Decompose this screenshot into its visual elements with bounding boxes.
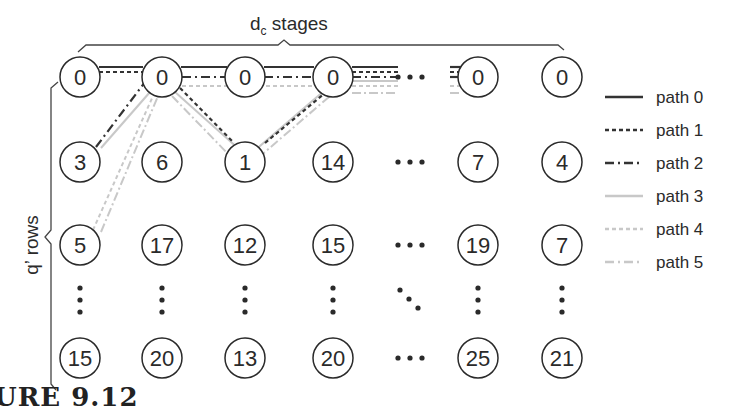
trellis-node: 17: [142, 225, 182, 265]
node-value: 14: [321, 150, 345, 175]
trellis-node: 15: [313, 225, 353, 265]
legend-label: path 1: [656, 121, 703, 140]
legend-label: path 3: [656, 187, 703, 206]
node-value: 3: [74, 150, 86, 175]
rows-brace: [45, 82, 58, 390]
ellipsis: [330, 285, 335, 314]
node-value: 7: [472, 150, 484, 175]
legend-item-path-2: path 2: [605, 154, 703, 173]
legend: path 0path 1path 2path 3path 4path 5: [605, 88, 703, 272]
ellipsis: [159, 285, 164, 314]
trellis-node: 21: [542, 338, 582, 378]
ellipsis: [395, 355, 424, 360]
legend-label: path 5: [656, 253, 703, 272]
node-value: 0: [472, 65, 484, 90]
legend-label: path 0: [656, 88, 703, 107]
node-value: 21: [550, 346, 574, 371]
node-value: 25: [466, 346, 490, 371]
trellis-node: 0: [313, 57, 353, 97]
trellis-node: 20: [142, 338, 182, 378]
stages-brace: [78, 40, 564, 52]
trellis-node: 15: [60, 338, 100, 378]
trellis-node: 7: [458, 142, 498, 182]
legend-item-path-4: path 4: [605, 220, 703, 239]
trellis-node: 1: [225, 142, 265, 182]
legend-item-path-1: path 1: [605, 121, 703, 140]
node-value: 15: [68, 346, 92, 371]
legend-item-path-0: path 0: [605, 88, 703, 107]
node-value: 1: [239, 150, 251, 175]
legend-label: path 4: [656, 220, 703, 239]
node-value: 5: [74, 233, 86, 258]
trellis-node: 25: [458, 338, 498, 378]
node-value: 6: [156, 150, 168, 175]
node-value: 0: [327, 65, 339, 90]
trellis-node: 14: [313, 142, 353, 182]
node-value: 0: [556, 65, 568, 90]
rows-label: q’ rows: [21, 215, 42, 274]
trellis-node: 3: [60, 142, 100, 182]
node-value: 13: [233, 346, 257, 371]
trellis-node: 19: [458, 225, 498, 265]
node-value: 0: [156, 65, 168, 90]
node-value: 15: [321, 233, 345, 258]
node-value: 20: [150, 346, 174, 371]
trellis-node: 0: [60, 57, 100, 97]
legend-item-path-3: path 3: [605, 187, 703, 206]
ellipsis: [395, 242, 424, 247]
node-value: 19: [466, 233, 490, 258]
ellipsis: [475, 285, 480, 314]
figure-caption: URE 9.12: [0, 384, 138, 410]
node-value: 7: [556, 233, 568, 258]
legend-label: path 2: [656, 154, 703, 173]
ellipsis: [397, 287, 420, 310]
ellipsis: [559, 285, 564, 314]
ellipsis: [242, 285, 247, 314]
trellis-node: 0: [542, 57, 582, 97]
node-value: 4: [556, 150, 568, 175]
trellis-node: 0: [458, 57, 498, 97]
node-value: 17: [150, 233, 174, 258]
trellis-node: 13: [225, 338, 265, 378]
trellis-node: 4: [542, 142, 582, 182]
trellis-node: 12: [225, 225, 265, 265]
node-value: 12: [233, 233, 257, 258]
legend-item-path-5: path 5: [605, 253, 703, 272]
trellis-node: 7: [542, 225, 582, 265]
ellipsis: [77, 285, 82, 314]
stages-label: dc stages: [250, 13, 328, 38]
trellis-node: 0: [142, 57, 182, 97]
node-value: 0: [74, 65, 86, 90]
ellipsis: [395, 159, 424, 164]
ellipsis: [395, 74, 424, 79]
node-value: 0: [239, 65, 251, 90]
trellis-node: 5: [60, 225, 100, 265]
trellis-node: 20: [313, 338, 353, 378]
trellis-node: 6: [142, 142, 182, 182]
node-value: 20: [321, 346, 345, 371]
trellis-node: 0: [225, 57, 265, 97]
